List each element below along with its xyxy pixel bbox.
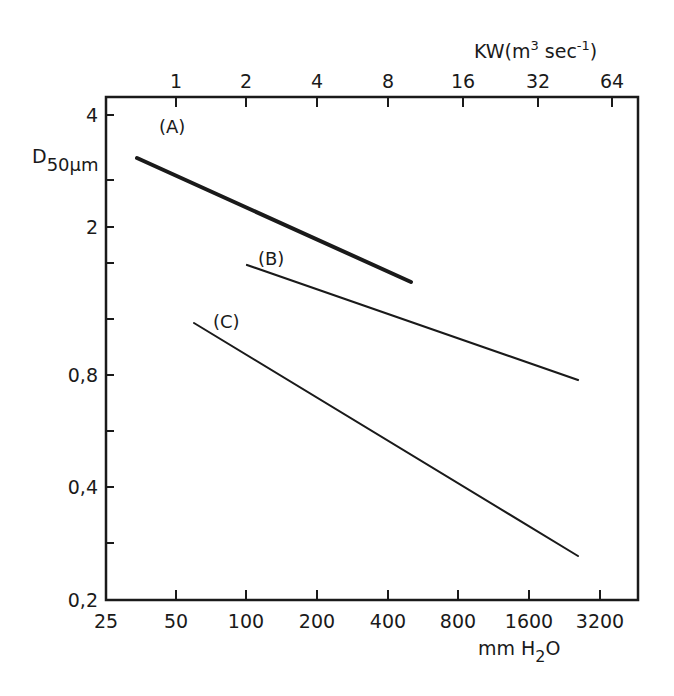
svg-text:1: 1 (170, 70, 182, 92)
x2-axis-labels: 1 2 4 8 16 32 64 (170, 70, 624, 92)
svg-text:4: 4 (311, 70, 323, 92)
plot-frame (106, 97, 638, 600)
svg-text:25: 25 (94, 610, 118, 632)
x-axis-ticks (176, 590, 600, 600)
series-b-label: (B) (258, 248, 284, 269)
svg-text:32: 32 (526, 70, 550, 92)
x2-axis-ticks (176, 97, 612, 107)
x2-axis-title: KW(m3 sec-1) (474, 38, 597, 62)
svg-text:2: 2 (86, 216, 98, 238)
series-a-label: (A) (159, 116, 185, 137)
svg-text:1600: 1600 (505, 610, 553, 632)
y-axis-title: D50µm (32, 145, 99, 175)
svg-text:8: 8 (382, 70, 394, 92)
svg-text:200: 200 (299, 610, 335, 632)
svg-text:50: 50 (164, 610, 188, 632)
svg-text:64: 64 (600, 70, 624, 92)
svg-text:100: 100 (228, 610, 264, 632)
chart: 25 50 100 200 400 800 1600 3200 mm H2O 1… (0, 0, 674, 696)
svg-text:4: 4 (86, 104, 98, 126)
svg-text:3200: 3200 (576, 610, 624, 632)
svg-text:16: 16 (451, 70, 475, 92)
svg-text:800: 800 (440, 610, 476, 632)
svg-text:2: 2 (240, 70, 252, 92)
series-c-line (194, 323, 578, 556)
y-axis-labels: 4 2 0,8 0,4 0,2 (68, 104, 98, 611)
svg-text:0,4: 0,4 (68, 476, 98, 498)
svg-text:400: 400 (370, 610, 406, 632)
x-axis-labels: 25 50 100 200 400 800 1600 3200 (94, 610, 624, 632)
series-c-label: (C) (213, 311, 240, 332)
svg-text:0,8: 0,8 (68, 364, 98, 386)
x-axis-title: mm H2O (478, 637, 561, 666)
svg-text:0,2: 0,2 (68, 589, 98, 611)
